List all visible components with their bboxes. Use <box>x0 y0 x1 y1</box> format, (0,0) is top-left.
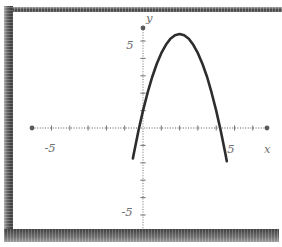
parabola-curve <box>133 34 227 161</box>
x-axis-label: x <box>264 142 271 156</box>
x-axis-arrow-left-icon <box>30 126 35 131</box>
graph-figure: y x -5 5 5 -5 <box>0 0 282 247</box>
plot-svg: y x -5 5 5 -5 <box>13 12 282 229</box>
y-tick-label-neg5: -5 <box>121 205 132 219</box>
x-tick-label-pos5: 5 <box>227 142 234 156</box>
y-axis-label: y <box>145 12 153 25</box>
x-axis-arrow-right-icon <box>265 126 270 131</box>
y-axis-arrow-top-icon <box>141 26 146 31</box>
x-tick-label-neg5: -5 <box>44 141 55 155</box>
frame-border-bottom <box>4 229 279 242</box>
y-tick-label-pos5: 5 <box>126 38 133 52</box>
frame-border-left <box>4 6 13 242</box>
